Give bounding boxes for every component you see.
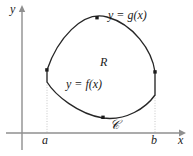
x-tick-label-a: a bbox=[42, 134, 48, 146]
marker-point-upper-curve bbox=[95, 16, 98, 19]
x-tick-label-b: b bbox=[151, 134, 157, 146]
boundary-curve-label: 𝒞 bbox=[110, 118, 119, 131]
marker-point-left-vertex bbox=[45, 68, 48, 71]
upper-curve-label: y = g(x) bbox=[108, 9, 147, 21]
figure-container: y x a b y = g(x) y = f(x) R 𝒞 bbox=[0, 0, 193, 156]
y-axis-label: y bbox=[10, 3, 15, 15]
y-axis-arrowhead bbox=[19, 5, 25, 12]
x-axis-label: x bbox=[178, 134, 183, 146]
region-label: R bbox=[100, 56, 107, 68]
marker-point-lower-curve bbox=[101, 116, 104, 119]
marker-point-right-vertex bbox=[153, 70, 156, 73]
lower-curve-label: y = f(x) bbox=[66, 78, 102, 90]
